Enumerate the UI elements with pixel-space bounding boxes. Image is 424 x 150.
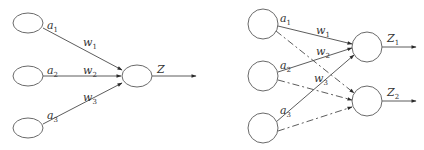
label-z1: Z1 [386,32,399,47]
output-node-z [122,65,152,87]
label-w2: w2 [316,45,330,60]
input-node-a2 [13,66,43,86]
right-diagram: a1 a2 a3 w1 w2 w3 Z1 Z2 [248,9,416,143]
label-a3: a3 [280,104,291,119]
left-diagram: a1 a2 a3 w1 w2 w3 Z [13,13,196,138]
label-w3: w3 [83,91,97,106]
label-a1: a1 [280,12,291,27]
output-node-z2 [352,86,382,116]
label-w1: w1 [83,36,97,51]
input-node-a3 [248,113,278,143]
input-node-a1 [13,13,43,33]
label-a1: a1 [47,19,58,34]
input-node-a3 [13,118,43,138]
input-node-a1 [248,9,278,39]
output-node-z1 [352,32,382,62]
input-node-a2 [248,61,278,91]
label-z: Z [156,63,165,76]
neural-network-diagrams: a1 a2 a3 w1 w2 w3 Z a1 a2 a3 w1 w2 w3 Z1 [0,0,424,150]
label-a2: a2 [280,59,291,74]
label-a3: a3 [47,109,58,124]
label-w1: w1 [316,24,330,39]
label-w2: w2 [83,64,97,79]
label-w3: w3 [314,72,328,87]
label-a2: a2 [47,64,58,79]
label-z2: Z2 [386,86,399,101]
